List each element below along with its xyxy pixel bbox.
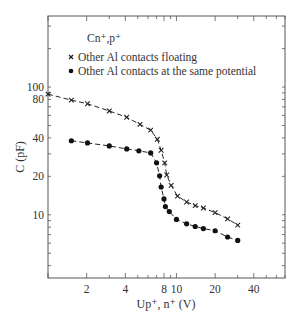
x-marker-icon [85,101,90,106]
x-marker-icon [155,137,160,142]
x-marker-icon [225,217,230,222]
dot-marker-icon [157,173,162,178]
dot-marker-icon [163,204,168,209]
axis-tick-labels: 24810204010204080100 [27,81,260,295]
x-marker-icon [169,183,174,188]
annotation-label: Cn⁺,p⁺ [87,32,121,45]
y-axis-label: C (pF) [13,141,27,173]
x-tick-label: 4 [122,283,128,295]
x-tick-label: 10 [171,283,183,295]
x-marker-icon [213,210,218,215]
x-marker-icon [159,148,164,153]
dot-marker-icon [225,234,230,239]
y-tick-label: 80 [33,93,45,105]
series-floating [46,92,240,228]
chart: 24810204010204080100 C (pF) Up⁺, n⁺ (V) … [0,0,299,324]
x-marker-icon [148,128,153,133]
dot-marker-icon [69,69,74,74]
x-tick-label: 40 [248,283,260,295]
dot-marker-icon [184,221,189,226]
dot-marker-icon [69,138,74,143]
x-tick-label: 8 [161,283,167,295]
data-series [46,92,241,243]
x-marker-icon [107,109,112,114]
x-tick-label: 20 [209,283,221,295]
legend: Other Al contacts floating Other Al cont… [69,51,257,78]
y-tick-label: 10 [33,209,45,221]
dot-marker-icon [148,150,153,155]
dot-marker-icon [213,228,218,233]
legend-label-same-potential: Other Al contacts at the same potential [78,65,256,78]
x-marker-icon [175,194,180,199]
y-tick-label: 100 [27,81,45,93]
dot-marker-icon [136,148,141,153]
legend-label-floating: Other Al contacts floating [78,51,197,64]
x-marker-icon [138,122,143,127]
legend-item-same-potential: Other Al contacts at the same potential [69,65,257,78]
dot-marker-icon [167,209,172,214]
y-tick-label: 20 [33,170,45,182]
x-axis-label: Up⁺, n⁺ (V) [137,297,196,311]
dot-marker-icon [124,146,129,151]
dot-marker-icon [85,140,90,145]
dot-marker-icon [159,184,164,189]
x-marker-icon [69,55,73,59]
dot-marker-icon [107,143,112,148]
x-marker-icon [235,223,240,228]
dot-marker-icon [161,196,166,201]
series-same-potential [69,138,241,243]
x-marker-icon [124,115,129,120]
dot-marker-icon [174,217,179,222]
dot-marker-icon [235,238,240,243]
dot-marker-icon [201,226,206,231]
dot-marker-icon [193,224,198,229]
y-tick-label: 40 [33,132,45,144]
x-marker-icon [184,200,189,205]
dot-marker-icon [154,160,159,165]
legend-item-floating: Other Al contacts floating [69,51,197,64]
x-tick-label: 2 [84,283,90,295]
